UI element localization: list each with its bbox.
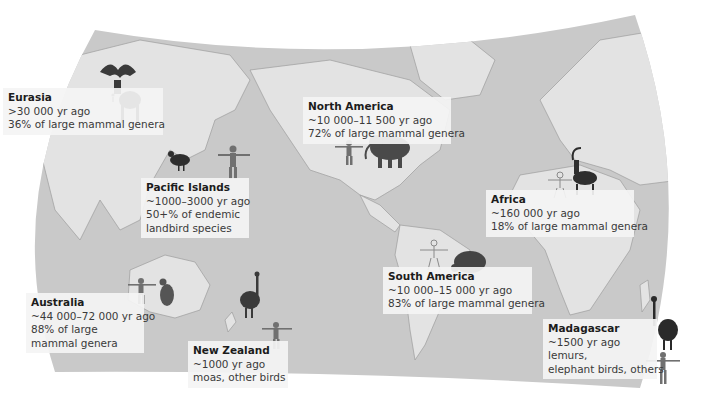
region-label-australia: Australia ~44 000–72 000 yr ago 88% of l… — [26, 293, 144, 353]
arrival-time: ~44 000–72 000 yr ago — [31, 310, 139, 324]
extinction-stat-line-1: 88% of large — [31, 323, 139, 337]
arrival-time: ~1000–3000 yr ago — [146, 195, 244, 209]
region-label-south-america: South America ~10 000–15 000 yr ago 83% … — [383, 267, 532, 314]
extinction-stat: 72% of large mammal genera — [308, 127, 446, 141]
region-name: Madagascar — [548, 322, 652, 336]
region-name: South America — [388, 270, 527, 284]
region-name: Australia — [31, 296, 139, 310]
region-name: Africa — [491, 193, 629, 207]
landmass-antarctica-edge — [300, 376, 360, 385]
extinction-stat-line-1: 50+% of endemic — [146, 208, 244, 222]
arrival-time: ~10 000–15 000 yr ago — [388, 284, 527, 298]
region-name: Pacific Islands — [146, 181, 244, 195]
extinction-stat-line-1: lemurs, — [548, 349, 652, 363]
extinction-stat: moas, other birds — [193, 371, 283, 385]
arrival-time: >30 000 yr ago — [8, 105, 158, 119]
region-name: North America — [308, 100, 446, 114]
extinction-stat: 18% of large mammal genera — [491, 220, 629, 234]
arrival-time: ~1000 yr ago — [193, 358, 283, 372]
extinction-stat: 36% of large mammal genera — [8, 118, 158, 132]
extinction-stat: 83% of large mammal genera — [388, 297, 527, 311]
arrival-time: ~160 000 yr ago — [491, 207, 629, 221]
extinction-stat-line-2: landbird species — [146, 222, 244, 236]
region-name: New Zealand — [193, 344, 283, 358]
region-label-madagascar: Madagascar ~1500 yr ago lemurs, elephant… — [543, 319, 657, 379]
region-label-north-america: North America ~10 000–11 500 yr ago 72% … — [303, 97, 451, 144]
region-label-new-zealand: New Zealand ~1000 yr ago moas, other bir… — [188, 341, 288, 388]
region-label-pacific-islands: Pacific Islands ~1000–3000 yr ago 50+% o… — [141, 178, 249, 238]
region-label-eurasia: Eurasia >30 000 yr ago 36% of large mamm… — [3, 88, 163, 135]
arrival-time: ~1500 yr ago — [548, 336, 652, 350]
region-label-africa: Africa ~160 000 yr ago 18% of large mamm… — [486, 190, 634, 237]
region-name: Eurasia — [8, 91, 158, 105]
extinction-stat-line-2: elephant birds, others — [548, 363, 652, 377]
arrival-time: ~10 000–11 500 yr ago — [308, 114, 446, 128]
extinction-stat-line-2: mammal genera — [31, 337, 139, 351]
